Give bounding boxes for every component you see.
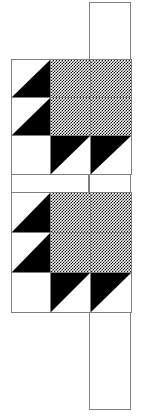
triangle-bottom-right-icon xyxy=(12,233,50,272)
quilt-block-bottom-patch-r2-c0 xyxy=(11,272,51,313)
quilt-block-top-patch-r0-c2 xyxy=(90,59,132,98)
quilt-block-bottom-patch-r2-c1 xyxy=(50,272,91,313)
quilt-block-bottom-patch-r1-c1 xyxy=(50,232,91,273)
quilt-block-bottom-patch-r0-c0 xyxy=(11,192,51,233)
quilt-block-top-patch-r2-c1 xyxy=(50,135,91,175)
quilt-block-bottom xyxy=(11,192,131,312)
quilt-block-top-patch-r0-c1 xyxy=(50,59,91,98)
quilt-block-top-patch-r1-c1 xyxy=(50,97,91,136)
quilt-block-bottom-patch-r1-c2 xyxy=(90,232,132,273)
quilt-block-top-patch-r0-c0 xyxy=(11,59,51,98)
quilt-block-top-patch-r2-c2 xyxy=(90,135,132,175)
triangle-top-left-icon xyxy=(51,273,90,312)
triangle-bottom-right-icon xyxy=(12,98,50,135)
quilt-block-bottom-patch-r0-c1 xyxy=(50,192,91,233)
quilt-diagram-canvas xyxy=(0,0,141,416)
quilt-block-bottom-patch-r0-c2 xyxy=(90,192,132,233)
middle-sash-right xyxy=(89,174,131,193)
middle-sash-left xyxy=(11,174,89,193)
quilt-block-bottom-patch-r1-c0 xyxy=(11,232,51,273)
triangle-top-left-icon xyxy=(91,273,131,312)
top-sash xyxy=(89,2,131,61)
triangle-bottom-right-icon xyxy=(12,193,50,232)
triangle-bottom-right-icon xyxy=(12,60,50,97)
quilt-block-top-patch-r2-c0 xyxy=(11,135,51,175)
quilt-block-top-patch-r1-c2 xyxy=(90,97,132,136)
quilt-block-bottom-patch-r2-c2 xyxy=(90,272,132,313)
quilt-block-top xyxy=(11,59,131,174)
quilt-block-top-patch-r1-c0 xyxy=(11,97,51,136)
triangle-top-left-icon xyxy=(51,136,90,174)
bottom-sash xyxy=(89,312,131,410)
triangle-top-left-icon xyxy=(91,136,131,174)
